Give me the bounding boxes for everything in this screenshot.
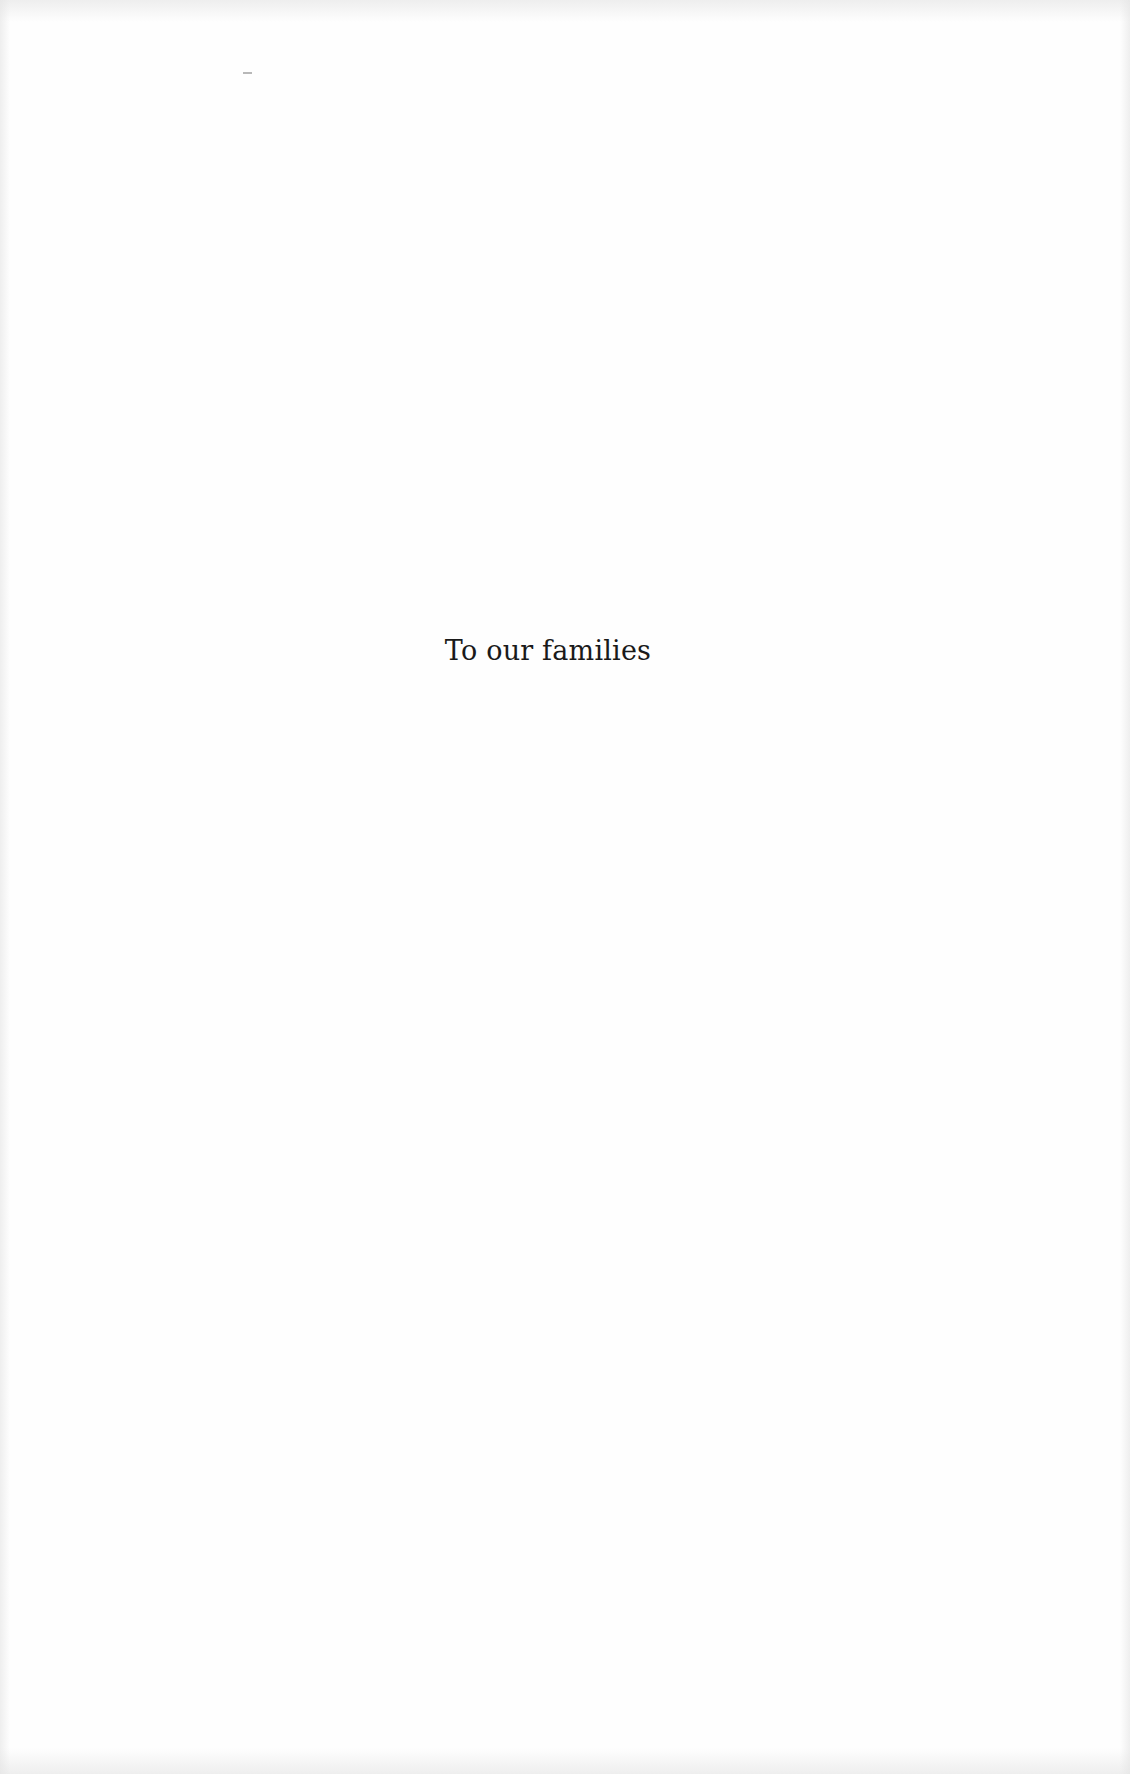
dedication-text: To our families — [445, 634, 651, 668]
scan-edge-right — [1120, 0, 1130, 1774]
scan-edge-top — [0, 0, 1130, 22]
book-page: To our families — [0, 0, 1130, 1774]
dedication: To our families — [0, 634, 1130, 668]
scan-edge-bottom — [0, 1748, 1130, 1774]
scan-edge-left — [0, 0, 10, 1774]
scan-mark — [243, 72, 252, 74]
